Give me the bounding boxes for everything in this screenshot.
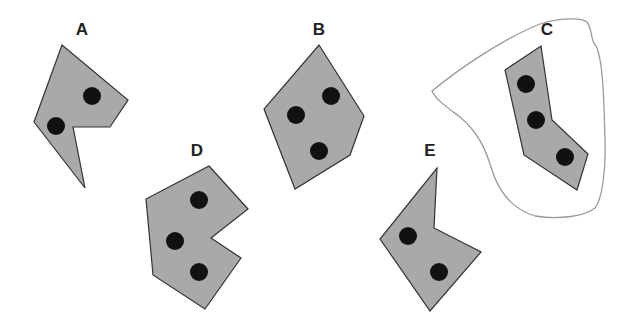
polygon-b	[264, 45, 364, 189]
dot-b-2	[287, 106, 305, 124]
dot-d-3	[190, 263, 208, 281]
dot-d-1	[190, 191, 208, 209]
shape-a: A	[34, 20, 128, 188]
label-b: B	[313, 20, 325, 39]
dot-e-1	[399, 227, 417, 245]
polygon-d	[146, 166, 248, 309]
polygon-a	[34, 45, 128, 188]
dot-d-2	[166, 232, 184, 250]
dot-c-2	[527, 111, 545, 129]
dot-c-3	[556, 148, 574, 166]
label-a: A	[76, 20, 88, 39]
dot-b-1	[322, 87, 340, 105]
shape-e: E	[380, 141, 481, 311]
shape-d: D	[146, 141, 248, 309]
dot-a-1	[83, 87, 101, 105]
label-d: D	[191, 141, 203, 160]
dot-e-2	[430, 263, 448, 281]
label-e: E	[424, 141, 435, 160]
diagram-svg: ABCDE	[0, 0, 634, 324]
dot-c-1	[517, 75, 535, 93]
diagram-canvas: ABCDE	[0, 0, 634, 324]
shape-b: B	[264, 20, 364, 189]
dot-a-2	[47, 117, 65, 135]
label-c: C	[541, 20, 553, 39]
dot-b-3	[310, 142, 328, 160]
polygon-e	[380, 168, 481, 311]
